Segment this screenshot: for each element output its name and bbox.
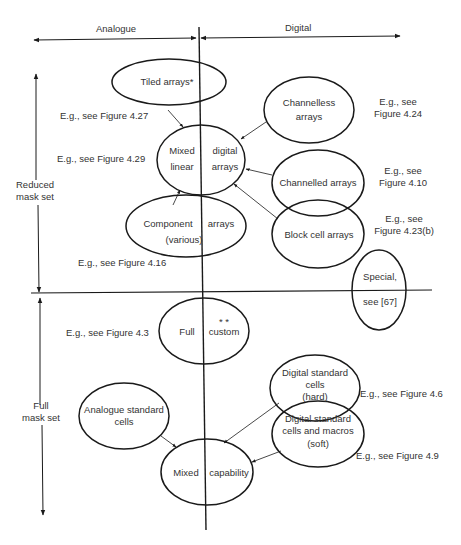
- mixed-arrays-q3: linear: [170, 161, 193, 173]
- digital-soft-ref: E.g., see Figure 4.9: [356, 450, 439, 462]
- tiled-arrays-label: Tiled arrays*: [141, 76, 194, 88]
- component-arrays-right: arrays: [208, 218, 234, 230]
- full-custom-left: Full: [179, 326, 194, 338]
- component-to-mixed-arrow: [173, 190, 180, 205]
- channelled-arrays-ref-line1: E.g., see: [384, 165, 422, 177]
- digital-range-arrow: [201, 36, 400, 38]
- full-custom-right: custom: [209, 326, 240, 338]
- digital-soft-line2: cells and macros: [282, 425, 353, 437]
- tiled-arrays-ref: E.g., see Figure 4.27: [60, 110, 148, 122]
- digital-label: Digital: [285, 22, 311, 34]
- component-arrays-left: Component: [143, 218, 192, 230]
- analogue-std-to-mixed-capability-arrow: [161, 436, 176, 447]
- tiled-to-mixed-arrow: [168, 110, 183, 127]
- block-cell-arrays-ref-line1: E.g., see: [385, 213, 423, 225]
- channelless-arrays-label-line2: arrays: [296, 111, 322, 123]
- mixed-arrays-q2: digital: [213, 145, 238, 157]
- mixed-arrays-q1: Mixed: [169, 145, 194, 157]
- design-style-diagram: Analogue Digital Reduced mask set Full m…: [0, 0, 461, 545]
- reduced-mask-set-label-line1: Reduced: [16, 179, 54, 191]
- channelless-arrays-node: [264, 77, 354, 143]
- analogue-std-line1: Analogue standard: [84, 404, 164, 416]
- special-label-line1: Special,: [363, 271, 397, 283]
- mixed-capability-right: capability: [209, 467, 249, 479]
- full-custom-ref: E.g., see Figure 4.3: [66, 327, 149, 339]
- reduced-mask-set-label-line2: mask set: [16, 191, 54, 203]
- mixed-arrays-ref: E.g., see Figure 4.29: [57, 153, 145, 165]
- digital-hard-line1: Digital standard: [282, 367, 348, 379]
- mask-set-divider: [31, 290, 432, 293]
- digital-hard-to-mixed-capability-arrow: [224, 403, 279, 443]
- component-arrays-line2: (various): [166, 234, 203, 246]
- channelless-arrays-ref-line2: Figure 4.24: [374, 108, 422, 120]
- digital-hard-line3: (hard): [302, 391, 327, 403]
- mixed-capability-left: Mixed: [173, 467, 198, 479]
- channelled-arrays-ref-line2: Figure 4.10: [379, 177, 427, 189]
- digital-hard-line2: cells: [305, 379, 324, 391]
- mixed-arrays-q4: arrays: [212, 161, 238, 173]
- full-mask-set-label-line2: mask set: [22, 412, 60, 424]
- digital-hard-ref: E.g., see Figure 4.6: [360, 388, 443, 400]
- channelless-to-mixed-arrow: [241, 122, 266, 139]
- block-cell-arrays-ref-line2: Figure 4.23(b): [374, 225, 434, 237]
- analogue-std-line2: cells: [114, 416, 133, 428]
- channelless-arrays-ref-line1: E.g., see: [379, 96, 417, 108]
- analogue-range-arrow: [34, 38, 196, 40]
- block-cell-arrays-label: Block cell arrays: [284, 229, 353, 241]
- analogue-label: Analogue: [96, 23, 136, 35]
- digital-soft-line1: Digital standard: [285, 413, 351, 425]
- channelled-to-mixed-arrow: [246, 169, 272, 175]
- full-mask-set-label-line1: Full: [33, 400, 48, 412]
- component-arrays-ref: E.g., see Figure 4.16: [78, 257, 166, 269]
- digital-soft-line3: (soft): [307, 438, 329, 450]
- channelless-arrays-label-line1: Channelless: [283, 97, 335, 109]
- special-label-line2: see [67]: [363, 296, 397, 308]
- digital-soft-to-mixed-capability-arrow: [252, 451, 281, 462]
- channelled-arrays-label: Channelled arrays: [279, 177, 356, 189]
- analogue-digital-divider: [199, 27, 206, 530]
